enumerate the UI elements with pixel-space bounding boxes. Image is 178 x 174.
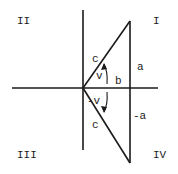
- label-hyp-bottom: c: [92, 119, 99, 131]
- quadrant-label-iv: IV: [153, 149, 167, 161]
- arrowhead-negative-icon: [101, 106, 107, 113]
- quadrant-label-iii: III: [17, 149, 37, 161]
- label-angle-pos: v: [96, 70, 103, 82]
- arrowhead-positive-icon: [101, 63, 107, 70]
- quadrant-label-ii: II: [17, 15, 30, 27]
- label-hyp-top: c: [92, 53, 99, 65]
- quadrant-label-i: I: [153, 15, 160, 27]
- label-adjacent: b: [115, 75, 122, 87]
- label-opposite-pos: a: [137, 61, 144, 73]
- label-opposite-neg: -a: [133, 110, 147, 122]
- quadrant-diagram: II I III IV c v b a -v c -a: [0, 0, 178, 174]
- hypotenuse-upper: [83, 21, 130, 88]
- label-angle-neg: -v: [87, 95, 101, 107]
